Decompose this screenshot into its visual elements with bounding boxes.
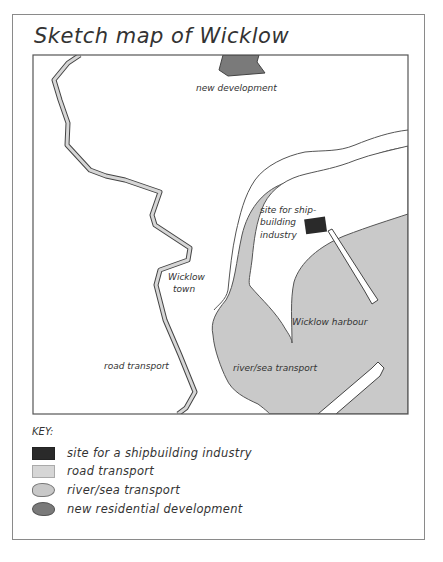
new-development-area bbox=[219, 55, 265, 76]
key-label: new residential development bbox=[67, 502, 243, 516]
label-site-line2: building bbox=[260, 217, 296, 227]
label-river-sea-transport: river/sea transport bbox=[233, 363, 317, 373]
key-item-shipbuilding: site for a shipbuilding industry bbox=[32, 444, 252, 462]
key-item-new-development: new residential development bbox=[32, 500, 243, 518]
label-road-transport: road transport bbox=[104, 361, 169, 371]
black-rectangle-icon bbox=[32, 447, 55, 460]
label-site-line3: industry bbox=[260, 230, 298, 240]
key-label: river/sea transport bbox=[67, 483, 180, 497]
key-item-road: road transport bbox=[32, 462, 154, 480]
dark-grey-blob-icon bbox=[32, 502, 55, 516]
light-grey-rectangle-icon bbox=[32, 465, 55, 478]
label-town-line2: town bbox=[173, 284, 195, 294]
key-title: KEY: bbox=[32, 426, 53, 437]
label-site-line1: site for ship- bbox=[260, 205, 316, 215]
key-item-river-sea: river/sea transport bbox=[32, 481, 180, 499]
label-town-line1: Wicklow bbox=[168, 272, 206, 282]
shipbuilding-site bbox=[304, 217, 327, 235]
label-new-development: new development bbox=[196, 83, 277, 93]
key-label: road transport bbox=[67, 464, 154, 478]
label-harbour: Wicklow harbour bbox=[292, 317, 369, 327]
grey-blob-icon bbox=[32, 483, 55, 497]
key-label: site for a shipbuilding industry bbox=[67, 446, 252, 460]
